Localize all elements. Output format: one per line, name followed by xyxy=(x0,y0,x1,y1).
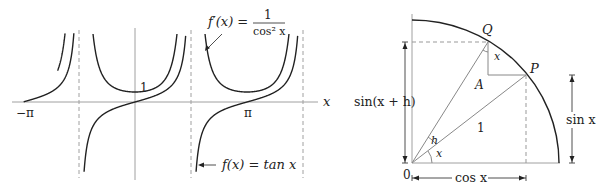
label-cos-x: cos x xyxy=(455,170,487,185)
tick-neg-pi: −π xyxy=(16,106,34,120)
label-sin-x-plus-h: sin(x + h) xyxy=(354,94,416,109)
arrowhead-icon xyxy=(413,176,419,181)
tan-curve xyxy=(24,33,74,102)
arrowhead-icon xyxy=(519,176,525,181)
tan-graph: −π π 1 x f′(x) = 1 cos² x f(x) = tan x xyxy=(0,0,340,191)
label-sin-x: sin x xyxy=(566,112,596,127)
derivative-curve xyxy=(205,34,289,92)
label-angle-x-at-Q: x xyxy=(494,50,501,63)
label-bg xyxy=(452,170,488,186)
tick-one: 1 xyxy=(140,81,148,95)
angle-arc-h xyxy=(428,137,436,144)
unit-arc xyxy=(412,20,559,163)
derivative-denominator: cos² x xyxy=(253,25,286,38)
label-Q: Q xyxy=(482,22,493,37)
derivative-numerator: 1 xyxy=(264,8,272,22)
label-radius: 1 xyxy=(477,121,485,135)
label-P: P xyxy=(529,61,539,76)
label-x: x xyxy=(436,147,443,160)
label-origin: 0 xyxy=(403,168,411,182)
label-h: h xyxy=(431,134,438,147)
tick-pi: π xyxy=(244,106,252,120)
angle-arc-x-at-Q xyxy=(483,50,488,52)
curves xyxy=(24,33,298,172)
arrowhead-icon xyxy=(570,76,575,82)
x-axis-label: x xyxy=(323,94,331,109)
arrowhead-icon xyxy=(403,43,408,49)
function-label: f(x) = tan x xyxy=(221,157,297,172)
derivative-label: f′(x) = xyxy=(207,14,248,29)
radius-Q xyxy=(412,42,488,163)
radius-P xyxy=(412,75,526,163)
label-bg xyxy=(565,112,591,128)
label-A: A xyxy=(474,78,484,92)
arrowhead-icon xyxy=(570,156,575,162)
arrowhead-icon xyxy=(198,163,204,168)
derivative-pointer xyxy=(207,34,222,49)
angle-arc-x xyxy=(428,151,432,163)
derivative-curve xyxy=(58,33,65,70)
tan-curve xyxy=(196,36,298,172)
arrowhead-icon xyxy=(403,156,408,162)
